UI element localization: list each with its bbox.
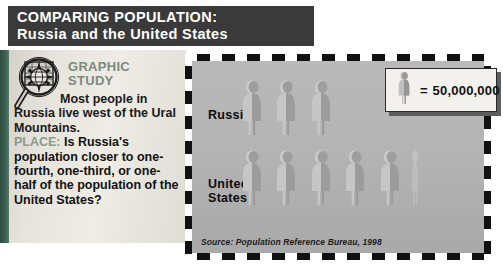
page-title-line2: Russia and the United States: [17, 26, 314, 43]
legend-equals-sign: =: [420, 83, 428, 98]
person-icon-partial: [412, 149, 418, 211]
page-title-line1: COMPARING POPULATION:: [17, 9, 314, 26]
panel-wave-bottom-edge: [0, 243, 186, 277]
person-icon: [274, 149, 298, 211]
legend-value: 50,000,000: [433, 83, 500, 98]
frame-dash-left: [185, 54, 192, 260]
person-icon: [343, 149, 367, 211]
person-icon: [240, 149, 264, 211]
panel-left-edge-stripe: [0, 50, 9, 260]
pictograph-row-russia: [240, 79, 333, 141]
person-icon: [394, 71, 414, 109]
person-icon: [274, 79, 298, 141]
legend-box: = 50,000,000: [385, 68, 497, 112]
frame-dash-bottom: [185, 253, 491, 260]
pictograph-row-united-states: [240, 149, 418, 211]
graphic-study-heading: GRAPHIC STUDY: [68, 60, 178, 88]
study-body-text: Most people in Russia live west of the U…: [14, 92, 180, 207]
title-banner: COMPARING POPULATION: Russia and the Uni…: [8, 6, 314, 46]
person-icon: [309, 149, 333, 211]
source-note: Source: Population Reference Bureau, 199…: [201, 237, 382, 247]
graphic-study-heading-line2: STUDY: [68, 74, 178, 88]
place-label: PLACE:: [14, 135, 61, 149]
person-icon: [240, 79, 264, 141]
person-icon: [378, 149, 402, 211]
person-icon: [309, 79, 333, 141]
graphic-study-heading-line1: GRAPHIC: [68, 60, 178, 74]
frame-dash-top: [185, 54, 491, 61]
study-intro-text: Most people in Russia live west of the U…: [14, 92, 180, 135]
